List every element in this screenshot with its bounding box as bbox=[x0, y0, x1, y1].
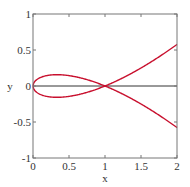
y-tick-label: 1 bbox=[26, 8, 32, 20]
chart: 00.511.52-1-0.500.51xy bbox=[0, 0, 190, 187]
curve-lower bbox=[33, 44, 177, 97]
x-tick-label: 1.5 bbox=[134, 160, 148, 172]
x-tick-label: 2 bbox=[174, 160, 180, 172]
y-tick-label: -1 bbox=[22, 152, 31, 164]
x-tick-label: 0 bbox=[30, 160, 36, 172]
curve-upper bbox=[33, 75, 177, 128]
y-tick-label: 0 bbox=[26, 80, 32, 92]
y-tick-label: -0.5 bbox=[14, 116, 32, 128]
x-tick-label: 1 bbox=[102, 160, 108, 172]
x-axis-label: x bbox=[102, 172, 108, 184]
y-tick-label: 0.5 bbox=[17, 44, 31, 56]
plot-area: 00.511.52-1-0.500.51xy bbox=[7, 8, 180, 184]
x-tick-label: 0.5 bbox=[62, 160, 76, 172]
y-axis-label: y bbox=[7, 80, 13, 92]
